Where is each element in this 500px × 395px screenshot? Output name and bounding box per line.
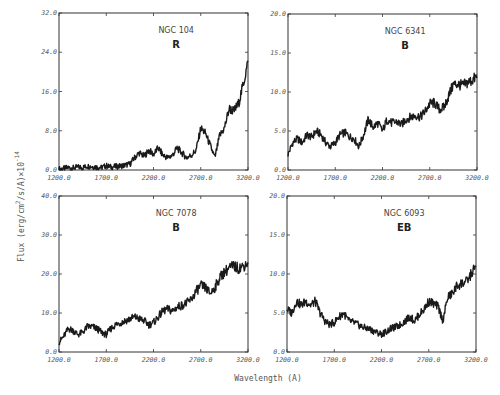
x-tick-label: 2200.0: [370, 356, 394, 364]
y-tick-label: 40.0: [41, 192, 57, 200]
x-tick-label: 2200.0: [371, 174, 395, 182]
y-tick-label: 20.0: [270, 10, 286, 18]
y-tick-label: 15.0: [270, 49, 286, 57]
y-tick-label: 15.0: [269, 231, 285, 239]
panel-class-label: EB: [397, 222, 411, 233]
y-tick-label: 10.0: [270, 88, 286, 96]
y-axis-title-part2: /s/A)×10: [17, 162, 26, 201]
x-tick-label: 3200.0: [464, 174, 489, 182]
x-tick-label: 2700.0: [418, 174, 442, 182]
panel-ngc-6341: 0.05.010.015.020.01200.01700.02200.02700…: [270, 10, 488, 182]
y-tick-label: 10.0: [269, 270, 285, 278]
plot-frame: [287, 196, 476, 352]
panel-title: NGC 6341: [385, 27, 426, 36]
panel-class-label: B: [401, 40, 409, 51]
x-tick-label: 1200.0: [47, 356, 71, 364]
y-tick-label: 5.0: [274, 127, 286, 135]
x-tick-label: 2700.0: [189, 174, 213, 182]
spectrum-line: [59, 262, 248, 346]
y-tick-label: 0.0: [274, 166, 286, 174]
x-tick-label: 3200.0: [463, 356, 488, 364]
y-tick-label: 0.0: [273, 348, 285, 356]
y-tick-label: 8.0: [45, 127, 57, 135]
y-tick-label: 5.0: [273, 309, 285, 317]
panel-ngc-6093: 0.05.010.015.020.01200.01700.02200.02700…: [269, 192, 487, 364]
x-tick-label: 2200.0: [142, 356, 166, 364]
y-tick-label: 10.0: [41, 309, 57, 317]
x-tick-label: 3200.0: [235, 174, 260, 182]
y-tick-label: 20.0: [41, 270, 57, 278]
y-tick-label: 0.0: [45, 348, 57, 356]
panel-title: NGC 7078: [156, 209, 197, 218]
x-tick-label: 1200.0: [276, 174, 300, 182]
y-tick-label: 32.0: [40, 9, 57, 17]
y-axis-title-sup2: -14: [13, 151, 20, 162]
y-axis-title-part1: Flux (erg/cm: [17, 204, 26, 262]
x-tick-label: 1700.0: [95, 356, 119, 364]
spectrum-line: [287, 265, 476, 337]
y-axis-title: Flux (erg/cm2/s/A)×10-14: [13, 151, 26, 262]
x-axis-title: Wavelength (A): [234, 374, 301, 383]
panel-class-label: R: [172, 39, 180, 50]
x-tick-label: 3200.0: [235, 356, 260, 364]
panel-title: NGC 104: [158, 26, 194, 35]
plot-frame: [59, 13, 248, 170]
x-tick-label: 1700.0: [323, 356, 347, 364]
panel-title: NGC 6093: [384, 209, 425, 218]
spectra-figure: 0.08.016.024.032.01200.01700.02200.02700…: [0, 0, 500, 395]
y-tick-label: 20.0: [269, 192, 285, 200]
y-tick-label: 16.0: [41, 88, 57, 96]
x-tick-label: 1700.0: [324, 174, 348, 182]
y-tick-label: 24.0: [41, 48, 57, 56]
panel-class-label: B: [172, 222, 180, 233]
spectrum-line: [59, 61, 248, 170]
y-tick-label: 30.0: [40, 231, 57, 239]
x-tick-label: 2200.0: [142, 174, 166, 182]
x-tick-label: 1200.0: [275, 356, 299, 364]
x-tick-label: 1700.0: [95, 174, 119, 182]
panel-ngc-7078: 0.010.020.030.040.01200.01700.02200.0270…: [40, 192, 259, 364]
panel-ngc-104: 0.08.016.024.032.01200.01700.02200.02700…: [40, 9, 259, 182]
y-tick-label: 0.0: [45, 166, 57, 174]
x-tick-label: 2700.0: [417, 356, 441, 364]
x-tick-label: 2700.0: [189, 356, 213, 364]
spectrum-line: [288, 73, 477, 156]
x-tick-label: 1200.0: [47, 174, 71, 182]
